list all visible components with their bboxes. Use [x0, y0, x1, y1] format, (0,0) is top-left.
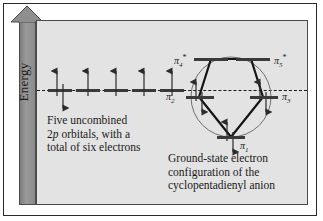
mo-label-pi3: π3: [282, 91, 291, 105]
mo-label-pi3-sub: 3: [287, 97, 291, 105]
mo-level-pi4-star: [194, 58, 228, 61]
p-orbital-level-2: [76, 89, 100, 92]
left-caption-line-1: Five uncombined: [47, 114, 141, 128]
p-orbital-level-4: [132, 89, 156, 92]
mo-level-pi3: [250, 96, 278, 99]
mo-level-pi2: [186, 96, 214, 99]
mo-label-pi5-star-sub: 5: [279, 61, 283, 69]
mo-label-pi4-star-sub: 4: [179, 61, 183, 69]
energy-axis-label: Energy: [16, 52, 32, 112]
energy-axis-shaft: [19, 22, 36, 205]
right-caption-line-1: Ground-state electron: [168, 152, 275, 166]
right-caption-line-2: configuration of the: [168, 166, 275, 180]
mo-label-pi4-star-sup: *: [183, 53, 187, 62]
mo-label-pi5-star-sup: *: [283, 53, 287, 62]
right-caption: Ground-state electron configuration of t…: [168, 152, 275, 193]
p-orbital-level-1: [48, 89, 72, 92]
right-caption-line-3: cyclopentadienyl anion: [168, 179, 275, 193]
left-caption-line-2-post: orbitals, with a: [59, 128, 131, 140]
mo-label-pi4-star: π4*: [174, 53, 187, 69]
mo-level-pi5-star: [236, 58, 270, 61]
figure-container: Energy: [0, 0, 323, 221]
left-caption-line-3: total of six electrons: [47, 141, 141, 155]
mo-level-pi1: [217, 136, 245, 139]
p-orbital-level-3: [104, 89, 128, 92]
mo-label-pi2: π2: [166, 91, 175, 105]
left-caption: Five uncombined 2p orbitals, with a tota…: [47, 114, 141, 155]
mo-label-pi5-star: π5*: [274, 53, 287, 69]
left-caption-line-2: 2p orbitals, with a: [47, 128, 141, 142]
mo-label-pi2-sub: 2: [171, 97, 175, 105]
